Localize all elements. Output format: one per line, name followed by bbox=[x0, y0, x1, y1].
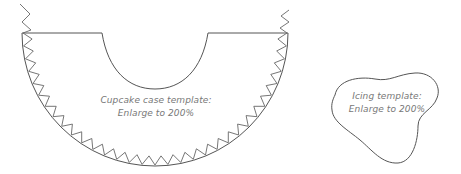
cupcake-inner-cutout bbox=[102, 33, 208, 89]
cupcake-caption-line1: Cupcake case template: bbox=[96, 94, 216, 107]
icing-caption-line1: Icing template: bbox=[346, 90, 428, 103]
icing-caption-line2: Enlarge to 200% bbox=[346, 103, 428, 116]
icing-template-caption: Icing template: Enlarge to 200% bbox=[346, 90, 428, 116]
icing-outline bbox=[332, 73, 439, 163]
zigzag-edge bbox=[20, 4, 289, 165]
icing-template bbox=[332, 73, 439, 163]
cupcake-caption-line2: Enlarge to 200% bbox=[96, 107, 216, 120]
template-drawing bbox=[0, 0, 461, 174]
cupcake-template-caption: Cupcake case template: Enlarge to 200% bbox=[96, 94, 216, 120]
